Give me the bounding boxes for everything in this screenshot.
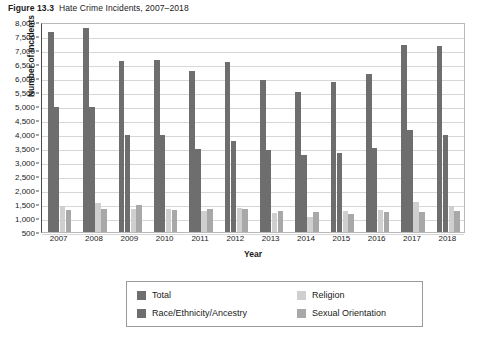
y-axis-tick-mark xyxy=(36,92,39,93)
bar-orientation[interactable] xyxy=(278,211,283,231)
y-axis-tick-mark xyxy=(36,148,39,149)
bar-total[interactable] xyxy=(295,92,300,231)
bar-total[interactable] xyxy=(331,82,336,232)
legend-label-religion: Religion xyxy=(312,290,345,300)
bar-group xyxy=(395,24,430,232)
x-axis-tick-label: 2010 xyxy=(156,234,174,243)
bar-religion[interactable] xyxy=(237,208,242,232)
y-axis-tick-label: 3,500 xyxy=(15,144,35,153)
y-axis-tick-label: 7,500 xyxy=(15,32,35,41)
bar-total[interactable] xyxy=(83,28,88,232)
y-axis-tick-label: 1,500 xyxy=(15,200,35,209)
bar-group xyxy=(219,24,254,232)
bar-race[interactable] xyxy=(231,141,236,232)
bar-religion[interactable] xyxy=(343,211,348,232)
bar-religion[interactable] xyxy=(272,213,277,231)
legend-item-race[interactable]: Race/Ethnicity/Ancestry xyxy=(137,308,297,318)
bar-total[interactable] xyxy=(225,62,230,232)
bar-religion[interactable] xyxy=(201,211,206,231)
bar-race[interactable] xyxy=(160,135,165,232)
bar-orientation[interactable] xyxy=(172,210,177,232)
bar-total[interactable] xyxy=(48,32,53,231)
x-axis-tick-labels: 2007200820092010201120122013201420152016… xyxy=(41,234,465,248)
x-axis-tick-label: 2009 xyxy=(120,234,138,243)
y-axis-tick-mark xyxy=(36,134,39,135)
bar-orientation[interactable] xyxy=(136,205,141,231)
legend-label-sexual-orientation: Sexual Orientation xyxy=(312,308,386,318)
bar-religion[interactable] xyxy=(166,209,171,232)
y-axis-tick-label: 1,000 xyxy=(15,214,35,223)
bar-orientation[interactable] xyxy=(419,212,424,232)
legend-item-religion[interactable]: Religion xyxy=(297,290,434,300)
y-axis-tick-label: 4,500 xyxy=(15,116,35,125)
bar-orientation[interactable] xyxy=(66,210,71,231)
y-axis-tick-label: 6,500 xyxy=(15,60,35,69)
bar-group xyxy=(289,24,324,232)
y-axis-tick-labels: 8,0007,5007,0006,5006,0005,5005,0004,500… xyxy=(0,23,39,233)
plot-area xyxy=(41,23,465,233)
bar-total[interactable] xyxy=(366,74,371,231)
y-axis-tick-label: 4,000 xyxy=(15,130,35,139)
x-axis-tick-label: 2018 xyxy=(438,234,456,243)
y-axis-tick-label: 8,000 xyxy=(15,18,35,27)
bar-religion[interactable] xyxy=(449,206,454,232)
bar-race[interactable] xyxy=(337,153,342,232)
bar-total[interactable] xyxy=(401,45,406,232)
bar-total[interactable] xyxy=(154,60,159,231)
bar-religion[interactable] xyxy=(307,217,312,231)
x-axis-tick-label: 2015 xyxy=(332,234,350,243)
x-axis-title: Year xyxy=(41,249,465,259)
y-axis-tick-label: 2,500 xyxy=(15,172,35,181)
bar-orientation[interactable] xyxy=(242,209,247,232)
bar-total[interactable] xyxy=(119,61,124,232)
y-axis-tick-label: 5,500 xyxy=(15,88,35,97)
bar-religion[interactable] xyxy=(131,209,136,231)
bar-orientation[interactable] xyxy=(313,212,318,231)
bar-orientation[interactable] xyxy=(207,209,212,231)
legend: Total Religion Race/Ethnicity/Ancestry S… xyxy=(126,281,423,327)
y-axis-tick-label: 500 xyxy=(22,228,35,237)
legend-label-race: Race/Ethnicity/Ancestry xyxy=(152,308,247,318)
y-axis-tick-mark xyxy=(36,120,39,121)
bar-orientation[interactable] xyxy=(101,209,106,231)
bar-race[interactable] xyxy=(443,135,448,232)
y-axis-tick-mark xyxy=(36,162,39,163)
bar-total[interactable] xyxy=(437,46,442,231)
legend-swatch-religion-icon xyxy=(297,291,306,300)
bar-orientation[interactable] xyxy=(348,214,353,231)
x-axis-tick-label: 2008 xyxy=(85,234,103,243)
y-axis-tick-mark xyxy=(36,22,39,23)
legend-label-total: Total xyxy=(152,290,171,300)
bar-group xyxy=(42,24,77,232)
y-axis-tick-label: 7,000 xyxy=(15,46,35,55)
figure-container: Figure 13.3Hate Crime Incidents, 2007–20… xyxy=(0,0,480,341)
x-axis-tick-label: 2013 xyxy=(262,234,280,243)
legend-item-sexual-orientation[interactable]: Sexual Orientation xyxy=(297,308,434,318)
x-axis-tick-label: 2016 xyxy=(368,234,386,243)
bar-race[interactable] xyxy=(301,155,306,231)
x-axis-tick-label: 2017 xyxy=(403,234,421,243)
y-axis-tick-mark xyxy=(36,204,39,205)
bar-race[interactable] xyxy=(54,107,59,232)
bar-religion[interactable] xyxy=(413,202,418,232)
y-axis-tick-label: 6,000 xyxy=(15,74,35,83)
bar-race[interactable] xyxy=(125,135,130,232)
bar-total[interactable] xyxy=(260,80,265,232)
bar-religion[interactable] xyxy=(60,206,65,231)
bar-orientation[interactable] xyxy=(384,212,389,231)
bar-group xyxy=(254,24,289,232)
bar-race[interactable] xyxy=(372,148,377,232)
bars-layer xyxy=(42,24,464,232)
bar-race[interactable] xyxy=(266,150,271,231)
bar-race[interactable] xyxy=(407,130,412,232)
bar-race[interactable] xyxy=(195,149,200,232)
bar-race[interactable] xyxy=(89,107,94,231)
y-axis-tick-mark xyxy=(36,190,39,191)
x-axis-tick-label: 2007 xyxy=(50,234,68,243)
y-axis-tick-mark xyxy=(36,176,39,177)
bar-religion[interactable] xyxy=(378,210,383,232)
legend-item-total[interactable]: Total xyxy=(137,290,297,300)
bar-orientation[interactable] xyxy=(454,211,459,232)
bar-religion[interactable] xyxy=(95,203,100,232)
bar-total[interactable] xyxy=(189,71,194,231)
